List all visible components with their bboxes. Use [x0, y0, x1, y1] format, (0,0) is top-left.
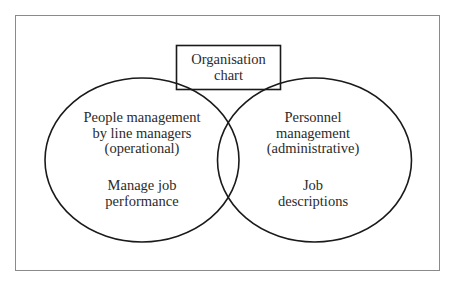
- left-detail-line-1: Manage job: [105, 178, 178, 194]
- left-ellipse: [45, 78, 239, 242]
- right-circle-heading: Personnel management (administrative): [267, 110, 360, 157]
- organisation-chart-label: Organisation chart: [176, 45, 281, 90]
- right-ellipse: [218, 78, 412, 242]
- box-label-line-1: Organisation: [191, 52, 266, 68]
- left-circle-detail: Manage job performance: [105, 178, 178, 209]
- right-circle-detail: Job descriptions: [278, 178, 348, 209]
- left-heading-line-2: by line managers: [83, 126, 200, 142]
- right-heading-line-1: Personnel: [267, 110, 360, 126]
- right-heading-line-3: (administrative): [267, 141, 360, 157]
- left-detail-line-2: performance: [105, 194, 178, 210]
- left-circle-heading: People management by line managers (oper…: [83, 110, 200, 157]
- right-detail-line-1: Job: [278, 178, 348, 194]
- left-heading-line-3: (operational): [83, 141, 200, 157]
- left-heading-line-1: People management: [83, 110, 200, 126]
- right-heading-line-2: management: [267, 126, 360, 142]
- venn-diagram: [0, 0, 457, 286]
- box-label-line-2: chart: [214, 68, 243, 84]
- right-detail-line-2: descriptions: [278, 194, 348, 210]
